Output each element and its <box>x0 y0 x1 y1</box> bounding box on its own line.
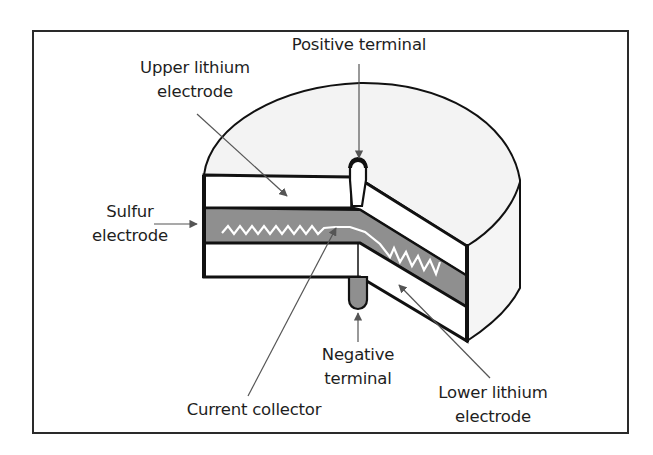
upper-lithium-electrode <box>204 175 352 208</box>
negative-terminal <box>349 277 367 309</box>
label-negative-terminal: Negative terminal <box>315 343 401 391</box>
label-lower-lithium-electrode: Lower lithium electrode <box>428 381 558 429</box>
label-positive-terminal: Positive terminal <box>283 33 435 57</box>
label-current-collector: Current collector <box>180 398 328 422</box>
label-upper-lithium-electrode: Upper lithium electrode <box>128 56 262 104</box>
label-sulfur-electrode: Sulfur electrode <box>88 200 172 248</box>
